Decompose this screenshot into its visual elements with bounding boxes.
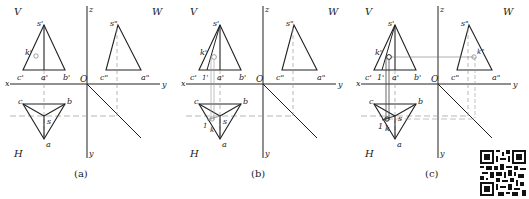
label-b: b [418, 97, 423, 106]
label-b: b [67, 97, 72, 106]
origin-label: O [256, 74, 264, 84]
label-c: c [369, 97, 374, 106]
axis-y-right: y [161, 80, 167, 89]
plane-label-w: W [152, 6, 163, 17]
plane-label-h: H [364, 148, 374, 159]
axis-y-right: y [512, 80, 518, 89]
label-k: k [385, 124, 390, 133]
label-b-prime: b' [63, 73, 70, 82]
label-b: b [243, 97, 248, 106]
label-c-prime: c' [190, 73, 197, 82]
three-view-projection-figure: V W H z x y y O s' c' a' b' k' s" c" a" … [0, 0, 529, 199]
label-s-dbl: s" [461, 19, 469, 28]
axis-z: z [264, 5, 270, 14]
label-c-prime: c' [17, 73, 24, 82]
plane-label-v: V [190, 6, 199, 17]
label-a-prime: a' [217, 73, 224, 82]
label-1: 1 [203, 122, 207, 130]
projection-diagram: V W H z x y y O s' c' a' b' k' s" c" a" … [0, 0, 529, 199]
label-1-prime: 1' [377, 73, 384, 82]
plane-label-h: H [13, 148, 23, 159]
label-k-dbl: k" [477, 48, 484, 56]
panel-b: V W H z x y y O s' c' 1' a' b' k' s" c" … [181, 5, 343, 179]
axis-y-down: y [88, 149, 94, 158]
label-a: a [397, 140, 402, 149]
axis-y-down: y [439, 149, 445, 158]
label-c-prime: c' [365, 73, 372, 82]
label-c: c [18, 97, 23, 106]
label-c: c [194, 97, 199, 106]
origin-label: O [431, 74, 439, 84]
axis-y-right: y [337, 80, 343, 89]
label-a-prime: a' [41, 73, 48, 82]
label-s-dbl: s" [286, 19, 294, 28]
label-k-prime: k' [375, 48, 382, 57]
label-s: s [398, 114, 402, 123]
origin-label: O [80, 74, 88, 84]
label-s: s [47, 117, 51, 126]
caption-a: (a) [74, 168, 88, 179]
label-a: a [222, 140, 227, 149]
label-a-prime: a' [392, 73, 399, 82]
plane-label-w: W [328, 6, 339, 17]
label-s: s [223, 117, 227, 126]
label-s-prime: s' [37, 19, 43, 28]
label-c-dbl: c" [451, 73, 459, 82]
plane-label-h: H [189, 148, 199, 159]
label-b-prime: b' [414, 73, 421, 82]
label-k-prime: k' [25, 48, 32, 57]
axis-x: x [181, 79, 186, 88]
caption-b: (b) [251, 168, 265, 179]
label-s-dbl: s" [110, 19, 118, 28]
label-k: k [210, 126, 214, 134]
plane-label-w: W [503, 6, 514, 17]
label-s-prime: s' [213, 19, 219, 28]
axis-z: z [88, 5, 94, 14]
label-a: a [46, 140, 51, 149]
label-a-dbl: a" [492, 73, 500, 82]
label-1-prime: 1' [202, 74, 208, 82]
axis-x: x [5, 79, 10, 88]
caption-c: (c) [425, 168, 439, 179]
label-1: 1 [378, 122, 383, 131]
plane-label-v: V [14, 6, 23, 17]
point-k-prime [34, 54, 38, 58]
label-s-prime: s' [388, 19, 394, 28]
plane-label-v: V [365, 6, 374, 17]
label-a-dbl: a" [141, 73, 149, 82]
axis-x: x [356, 79, 361, 88]
label-a-dbl: a" [317, 73, 325, 82]
label-c-dbl: c" [276, 73, 284, 82]
qr-code-icon [480, 150, 526, 196]
label-c-dbl: c" [100, 73, 108, 82]
panel-a: V W H z x y y O s' c' a' b' k' s" c" a" … [5, 5, 167, 179]
axis-y-down: y [264, 149, 270, 158]
label-b-prime: b' [239, 73, 246, 82]
label-k-prime: k' [200, 48, 207, 57]
axis-z: z [439, 5, 445, 14]
